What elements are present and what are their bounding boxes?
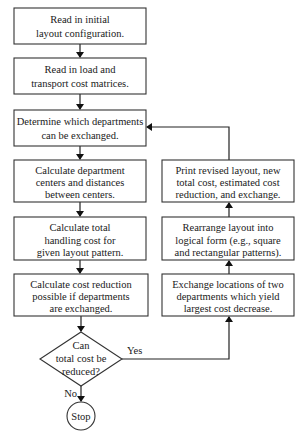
node-text-line: transport cost matrices. — [31, 78, 129, 89]
node-text-line: can be exchanged. — [41, 130, 118, 141]
node-text-line: reduced? — [62, 366, 100, 377]
node-text-line: layout configuration. — [36, 28, 124, 39]
node-text-line: total cost be — [56, 353, 107, 364]
node-text-line: Calculate total — [50, 222, 111, 233]
node-text-line: given layout pattern. — [37, 247, 124, 258]
flowchart: Read in initial layout configuration. Re… — [0, 0, 302, 437]
node-calc-centers: Calculate department centers and distanc… — [14, 160, 146, 202]
node-text-line: possible if departments — [32, 291, 129, 302]
node-text-line: are exchanged. — [50, 303, 113, 314]
node-text-line: Stop — [71, 411, 90, 422]
node-text-line: and rectangular patterns). — [175, 247, 282, 259]
node-text-line: Exchange locations of two — [172, 279, 284, 290]
node-text-line: Calculate department — [35, 165, 125, 176]
node-text-line: Determine which departments — [17, 116, 144, 127]
node-text-line: reduction, and exchange. — [176, 189, 281, 200]
edge-label-no: No — [64, 388, 77, 399]
node-text-line: departments which yield — [176, 291, 280, 302]
node-stop: Stop — [67, 402, 95, 430]
node-text-line: between centers. — [45, 189, 115, 200]
node-exchange-locations: Exchange locations of two departments wh… — [162, 274, 294, 316]
node-calc-reduction: Calculate cost reduction possible if dep… — [14, 274, 148, 316]
node-text-line: total cost, estimated cost — [176, 177, 279, 188]
edge-label-yes: Yes — [127, 345, 142, 356]
node-text-line: Read in initial — [50, 14, 110, 25]
node-text-line: Calculate cost reduction — [30, 279, 132, 290]
arrow-print-loop-to-determine — [147, 127, 229, 160]
node-text-line: Read in load and — [45, 64, 117, 75]
node-print-revised: Print revised layout, new total cost, es… — [162, 160, 294, 202]
node-text-line: largest cost decrease. — [184, 303, 273, 314]
node-read-layout: Read in initial layout configuration. — [14, 8, 146, 44]
node-determine-exchange: Determine which departments can be excha… — [14, 110, 146, 146]
node-rearrange: Rearrange layout into logical form (e.g.… — [162, 217, 294, 260]
node-decision: Can total cost be reduced? — [40, 332, 122, 386]
node-read-matrices: Read in load and transport cost matrices… — [14, 58, 146, 94]
node-text-line: Rearrange layout into — [183, 222, 274, 233]
node-calc-handling: Calculate total handling cost for given … — [14, 217, 146, 260]
node-text-line: handling cost for — [44, 235, 116, 246]
node-text-line: Print revised layout, new — [176, 165, 281, 176]
node-text-line: logical form (e.g., square — [175, 235, 281, 247]
node-text-line: centers and distances — [36, 177, 125, 188]
node-text-line: Can — [73, 340, 91, 351]
